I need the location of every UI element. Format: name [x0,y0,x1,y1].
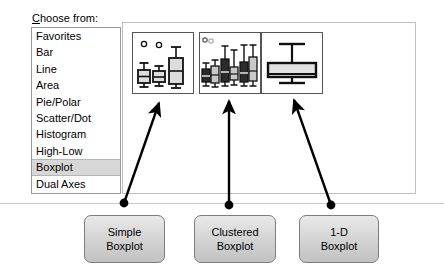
figure-root: Choose from: FavoritesBarLineAreaPie/Pol… [0,0,444,270]
callout-1d-boxplot: 1-D Boxplot [299,215,379,263]
chart-gallery-panel [122,22,416,194]
list-item[interactable]: Favorites [32,28,120,44]
list-item[interactable]: High-Low [32,143,120,159]
list-item[interactable]: Area [32,77,120,93]
list-item[interactable]: Line [32,61,120,77]
list-item[interactable]: Boxplot [32,159,120,175]
choose-from-label-underlined-initial: C [32,12,40,24]
horizontal-divider [0,203,444,204]
list-item[interactable]: Scatter/Dot [32,110,120,126]
callout-clustered-boxplot: Clustered Boxplot [194,215,276,263]
simple-boxplot-icon [133,33,193,93]
list-item[interactable]: Histogram [32,126,120,142]
callout-simple-boxplot-line1: Simple [106,225,143,239]
one-d-boxplot-icon [262,33,322,93]
list-item[interactable]: Bar [32,44,120,60]
callout-1d-boxplot-line2: Boxplot [321,239,358,253]
clustered-boxplot-thumbnail[interactable] [199,32,261,94]
callout-clustered-boxplot-line1: Clustered [211,225,258,239]
list-item[interactable]: Pie/Polar [32,94,120,110]
simple-boxplot-thumbnail[interactable] [132,32,194,94]
callout-clustered-boxplot-line2: Boxplot [211,239,258,253]
choose-from-label: Choose from: [32,12,98,24]
callout-1d-boxplot-line1: 1-D [321,225,358,239]
one-d-boxplot-thumbnail[interactable] [261,32,323,94]
choose-from-label-text: hoose from: [40,12,98,24]
chart-type-list[interactable]: FavoritesBarLineAreaPie/PolarScatter/Dot… [31,27,121,194]
list-item[interactable]: Dual Axes [32,176,120,192]
callout-simple-boxplot: Simple Boxplot [84,215,165,263]
clustered-boxplot-icon [200,33,260,93]
callout-simple-boxplot-line2: Boxplot [106,239,143,253]
